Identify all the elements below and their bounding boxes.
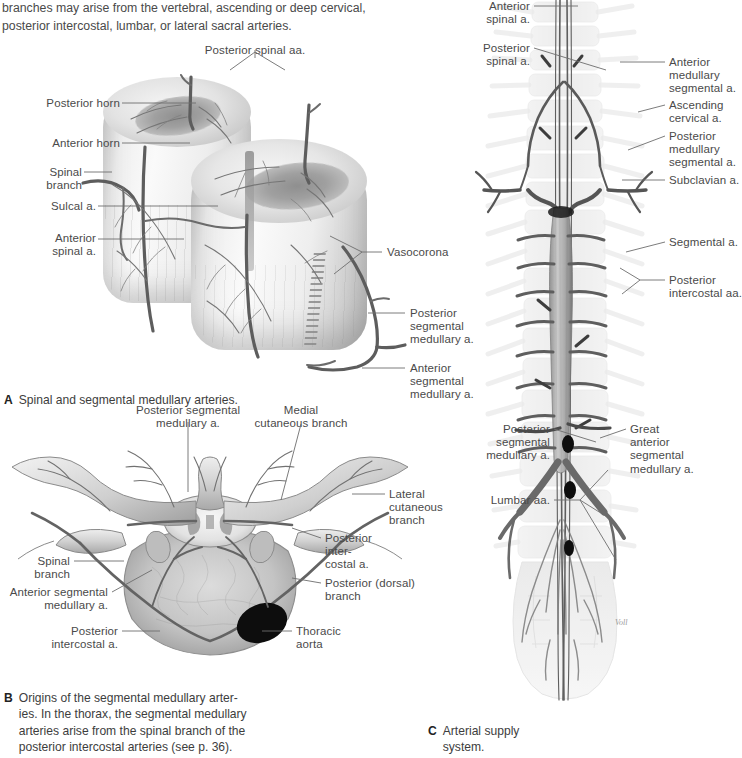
figure-a-illustration (95, 55, 425, 370)
label-posterior-segmental-medullary-a-figc: Posterior segmental medullary a. (450, 423, 550, 463)
figure-c-illustration: Voll (470, 0, 660, 700)
label-anterior-segmental-medullary-a-figb: Anterior segmental medullary a. (0, 586, 108, 612)
label-posterior-spinal-a-figc: Posterior spinal a. (462, 42, 530, 68)
label-posterior-intercostal-aa: Posterior intercostal aa. (669, 274, 742, 300)
intro-paragraph: branches may arise from the vertebral, a… (2, 0, 422, 35)
label-spinal-branch-a: Spinal branch (4, 166, 82, 192)
label-anterior-spinal-a: Anterior spinal a. (4, 232, 96, 258)
label-great-anterior-segmental-medullary-a: Great anterior segmental medullary a. (630, 423, 710, 476)
figure-b-letter: B (4, 690, 13, 707)
vertebral-column-arterial-supply (470, 0, 660, 700)
label-anterior-medullary-segmental-a: Anterior medullary segmental a. (669, 56, 742, 96)
label-posterior-medullary-segmental-a: Posterior medullary segmental a. (669, 130, 742, 170)
label-posterior-intercostal-a-figb: Posterior inter- costal a. (325, 532, 417, 572)
figure-c-caption: C Arterial supply system. (428, 706, 628, 758)
figure-c-caption-text: Arterial supply system. (443, 723, 520, 756)
figure-a-caption: A Spinal and segmental medullary arterie… (4, 375, 304, 425)
figure-a-vessel-network (95, 55, 425, 370)
artist-signature: Voll (615, 618, 627, 627)
label-anterior-horn: Anterior horn (4, 137, 120, 150)
label-thoracic-aorta: Thoracic aorta (296, 625, 376, 651)
label-segmental-a: Segmental a. (669, 236, 742, 249)
label-anterior-spinal-a-figc: Anterior spinal a. (462, 0, 530, 26)
label-posterior-horn: Posterior horn (4, 97, 120, 110)
label-posterior-intercostal-a-left: Posterior intercostal a. (10, 625, 118, 651)
label-spinal-branch-b: Spinal branch (12, 555, 70, 581)
figure-b-caption-text: Origins of the segmental medullary arter… (19, 690, 247, 756)
label-lumbar-aa: Lumbar aa. (450, 494, 550, 507)
label-subclavian-a: Subclavian a. (669, 174, 742, 187)
label-posterior-dorsal-branch: Posterior (dorsal) branch (325, 577, 435, 603)
label-posterior-spinal-aa: Posterior spinal aa. (185, 44, 325, 57)
figure-b-caption: B Origins of the segmental medullary art… (4, 673, 304, 758)
figure-a-letter: A (4, 392, 13, 409)
figure-a-caption-text: Spinal and segmental medullary arteries. (19, 392, 238, 409)
label-ascending-cervical-a: Ascending cervical a. (669, 99, 742, 125)
figure-c-letter: C (428, 723, 437, 740)
label-sulcal-a: Sulcal a. (4, 200, 96, 213)
